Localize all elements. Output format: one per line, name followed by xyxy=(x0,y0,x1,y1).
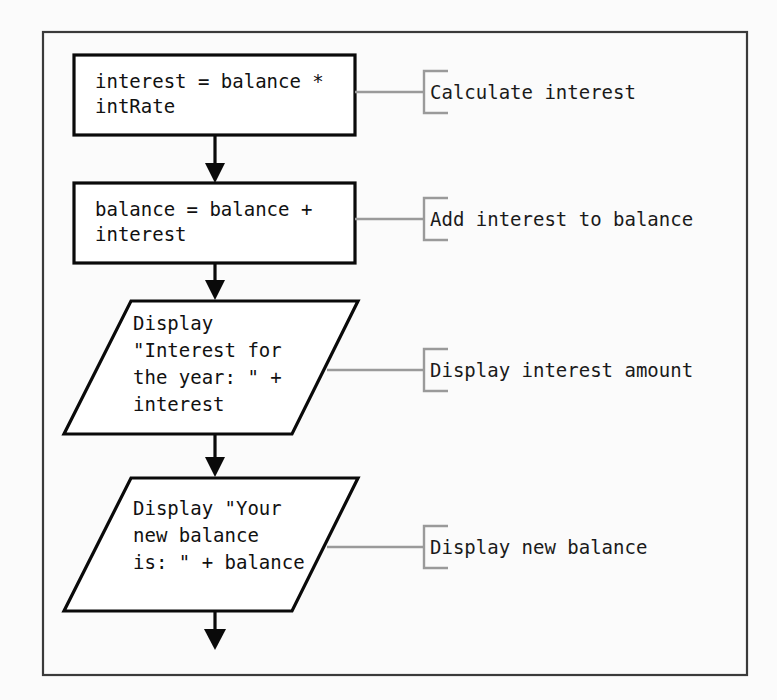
annotation-calculate-interest: Calculate interest xyxy=(355,71,636,113)
output-interest-line-1: Display xyxy=(133,312,213,334)
output-balance-line-1: Display "Your xyxy=(133,497,282,519)
flowchart-figure: interest = balance * intRate Calculate i… xyxy=(0,0,777,700)
process-balance-line-2: interest xyxy=(95,223,187,245)
output-balance-line-3: is: " + balance xyxy=(133,551,305,573)
output-interest-line-2: "Interest for xyxy=(133,339,282,361)
annotation-label-4: Display new balance xyxy=(430,536,647,558)
annotation-label-2: Add interest to balance xyxy=(430,208,693,230)
process-interest-line-1: interest = balance * xyxy=(95,70,324,92)
node-output-balance: Display "Your new balance is: " + balanc… xyxy=(64,478,358,611)
process-interest-line-2: intRate xyxy=(95,95,175,117)
output-interest-line-3: the year: " + xyxy=(133,366,282,388)
output-interest-line-4: interest xyxy=(133,393,225,415)
node-process-balance: balance = balance + interest xyxy=(74,183,355,263)
arrow-head-4 xyxy=(204,629,226,650)
node-process-interest: interest = balance * intRate xyxy=(74,55,355,135)
connector-arrow-4 xyxy=(204,611,226,650)
annotation-label-1: Calculate interest xyxy=(430,81,636,103)
annotation-display-balance: Display new balance xyxy=(327,526,647,568)
annotation-add-interest: Add interest to balance xyxy=(355,198,693,240)
arrow-head-3 xyxy=(205,457,225,477)
node-output-interest: Display "Interest for the year: " + inte… xyxy=(64,301,358,434)
arrow-head-1 xyxy=(205,163,225,183)
flowchart-canvas: interest = balance * intRate Calculate i… xyxy=(0,0,777,700)
arrow-head-2 xyxy=(205,280,225,300)
output-balance-line-2: new balance xyxy=(133,524,259,546)
connector-arrow-3 xyxy=(205,434,225,477)
connector-arrow-2 xyxy=(205,263,225,300)
connector-arrow-1 xyxy=(205,135,225,183)
annotation-display-interest: Display interest amount xyxy=(327,349,693,391)
annotation-label-3: Display interest amount xyxy=(430,359,693,381)
process-balance-line-1: balance = balance + xyxy=(95,198,312,220)
